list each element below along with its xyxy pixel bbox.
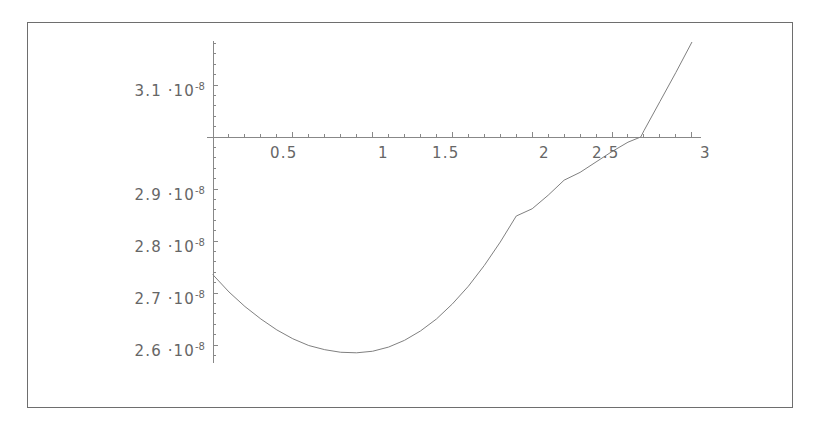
axes-group bbox=[207, 41, 701, 363]
ytick-label-2.9: 2.9 ·10-8 bbox=[110, 186, 205, 203]
ytick-label-2.6: 2.6 ·10-8 bbox=[110, 342, 205, 359]
plot-canvas bbox=[0, 0, 816, 431]
xtick-label-3: 3 bbox=[700, 146, 711, 161]
data-curve bbox=[213, 42, 692, 352]
xtick-label-1: 1 bbox=[378, 146, 389, 161]
curve-group bbox=[213, 42, 692, 352]
ytick-label-3.1: 3.1 ·10-8 bbox=[110, 82, 205, 99]
xtick-label-1.5: 1.5 bbox=[432, 146, 459, 161]
xtick-label-2: 2 bbox=[539, 146, 550, 161]
ytick-label-2.7: 2.7 ·10-8 bbox=[110, 290, 205, 307]
ytick-label-2.8: 2.8 ·10-8 bbox=[110, 238, 205, 255]
xtick-label-2.5: 2.5 bbox=[592, 146, 619, 161]
xtick-label-0.5: 0.5 bbox=[270, 146, 297, 161]
plot-figure: 3.1 ·10-8 2.9 ·10-8 2.8 ·10-8 2.7 ·10-8 … bbox=[0, 0, 816, 431]
